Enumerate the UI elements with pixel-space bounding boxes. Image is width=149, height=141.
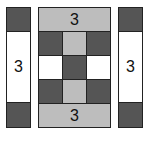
- center-top-band: 3: [38, 7, 111, 32]
- grid-cell-r1c2: [62, 31, 87, 56]
- grid-cell-r1c1: [38, 31, 63, 56]
- left-strip-bottom: [6, 102, 31, 128]
- grid-cell-r2c2: [62, 55, 87, 80]
- grid-cell-r1c3: [86, 31, 111, 56]
- grid-cell-r2c3: [86, 55, 111, 80]
- center-bottom-band: 3: [38, 103, 111, 128]
- left-strip-center: 3: [6, 31, 31, 103]
- right-strip-label: 3: [126, 58, 135, 76]
- grid-cell-r3c3: [86, 79, 111, 104]
- grid-cell-r3c2: [62, 79, 87, 104]
- center-top-label: 3: [70, 11, 79, 29]
- left-strip-top: [6, 7, 31, 32]
- grid-cell-r2c1: [38, 55, 63, 80]
- center-bottom-label: 3: [70, 107, 79, 125]
- right-strip-bottom: [118, 102, 143, 128]
- left-strip-label: 3: [14, 58, 23, 76]
- right-strip-top: [118, 7, 143, 32]
- grid-cell-r3c1: [38, 79, 63, 104]
- right-strip-center: 3: [118, 31, 143, 103]
